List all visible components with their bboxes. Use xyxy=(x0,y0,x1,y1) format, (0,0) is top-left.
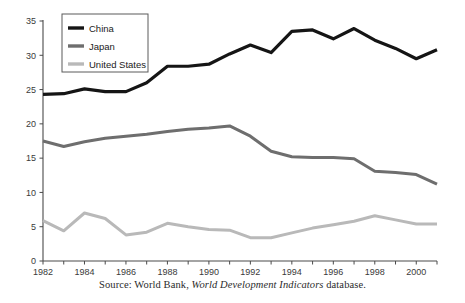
x-tick-label: 2000 xyxy=(406,267,426,277)
x-tick-label: 1982 xyxy=(33,267,53,277)
y-tick-label: 30 xyxy=(26,51,36,61)
y-tick-label: 15 xyxy=(26,153,36,163)
x-tick-label: 1998 xyxy=(365,267,385,277)
legend-label-united-states: United States xyxy=(89,59,146,70)
line-chart: 0510152025303519821984198619881990199219… xyxy=(0,0,465,303)
source-caption: Source: World Bank, World Development In… xyxy=(0,279,465,290)
caption-suffix: database. xyxy=(324,279,366,290)
caption-italic-title: World Development Indicators xyxy=(192,279,324,290)
y-tick-label: 5 xyxy=(31,222,36,232)
legend-label-china: China xyxy=(89,23,115,34)
y-tick-label: 25 xyxy=(26,85,36,95)
x-tick-label: 1990 xyxy=(199,267,219,277)
series-line-united-states xyxy=(43,213,437,238)
x-tick-label: 1986 xyxy=(116,267,136,277)
y-tick-label: 10 xyxy=(26,188,36,198)
chart-container: 0510152025303519821984198619881990199219… xyxy=(0,0,465,303)
series-line-japan xyxy=(43,126,437,184)
x-tick-label: 1994 xyxy=(282,267,302,277)
x-tick-label: 1988 xyxy=(157,267,177,277)
caption-prefix: Source: World Bank, xyxy=(99,279,192,290)
x-tick-label: 1996 xyxy=(323,267,343,277)
x-tick-label: 1984 xyxy=(74,267,94,277)
y-tick-label: 35 xyxy=(26,16,36,26)
legend-label-japan: Japan xyxy=(89,41,115,52)
x-tick-label: 1992 xyxy=(240,267,260,277)
y-tick-label: 20 xyxy=(26,119,36,129)
y-tick-label: 0 xyxy=(31,256,36,266)
